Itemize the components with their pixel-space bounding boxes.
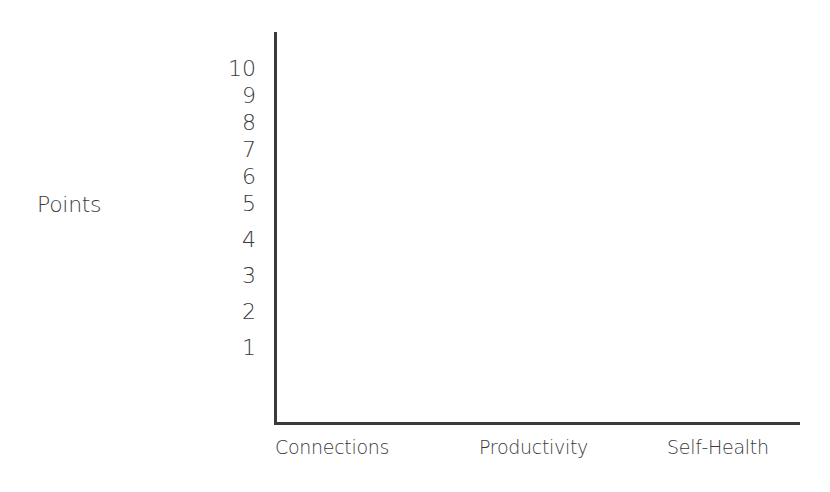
y-tick-10: 10 bbox=[216, 56, 256, 82]
y-tick-1: 1 bbox=[216, 335, 256, 361]
y-tick-2: 2 bbox=[216, 299, 256, 325]
x-axis-line bbox=[274, 422, 800, 425]
y-axis-label: Points bbox=[37, 192, 101, 217]
y-tick-8: 8 bbox=[216, 110, 256, 136]
y-axis-line bbox=[274, 32, 277, 425]
y-tick-5: 5 bbox=[216, 191, 256, 217]
x-category-self-health: Self-Health bbox=[667, 436, 769, 458]
y-tick-4: 4 bbox=[216, 227, 256, 253]
y-tick-9: 9 bbox=[216, 83, 256, 109]
y-tick-6: 6 bbox=[216, 164, 256, 190]
x-category-productivity: Productivity bbox=[479, 436, 588, 458]
x-category-connections: Connections bbox=[275, 436, 389, 458]
y-tick-7: 7 bbox=[216, 137, 256, 163]
y-tick-3: 3 bbox=[216, 263, 256, 289]
